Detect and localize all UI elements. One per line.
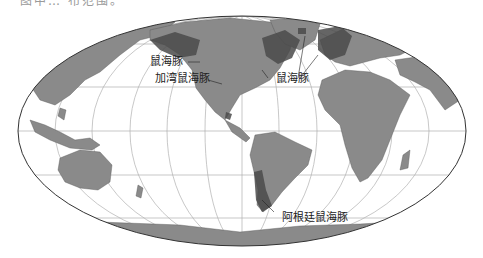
label-vaquita: 加湾鼠海豚 <box>155 73 210 85</box>
label-burmeister-porpoise: 阿根廷鼠海豚 <box>282 212 348 224</box>
label-harbour-porpoise-atlantic: 鼠海豚 <box>276 73 309 85</box>
range-black-sea <box>298 28 306 34</box>
label-harbour-porpoise-pacific: 鼠海豚 <box>150 56 183 68</box>
world-map <box>0 0 483 258</box>
